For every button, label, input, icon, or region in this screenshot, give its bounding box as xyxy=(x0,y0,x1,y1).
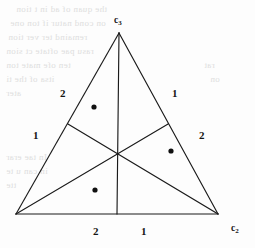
region-label-bottom-left: 2 xyxy=(93,226,99,237)
median-from-apex xyxy=(117,33,119,214)
region-label-left-upper: 2 xyxy=(60,88,66,99)
median-from-bottom-right xyxy=(68,124,218,214)
point-upper-left xyxy=(91,104,96,109)
median-from-bottom-left xyxy=(16,124,168,214)
point-mid-right xyxy=(168,148,173,153)
region-label-left-lower: 1 xyxy=(33,130,39,141)
region-label-right-upper: 1 xyxy=(172,88,178,99)
apex-vertex-label: c3 xyxy=(114,16,122,27)
bottom-right-vertex-label: c2 xyxy=(231,224,239,235)
region-label-right-lower: 2 xyxy=(199,130,205,141)
simplex-triangle-drawing xyxy=(0,0,255,248)
apex-vertex-label-subscript: 3 xyxy=(118,19,122,27)
region-label-bottom-right: 1 xyxy=(141,226,147,237)
bottom-right-vertex-label-subscript: 2 xyxy=(235,227,239,235)
median-lines-group xyxy=(16,33,218,214)
edge-left xyxy=(16,33,119,214)
point-lower-left xyxy=(92,187,97,192)
figure-container: the quan of ad in t tionon cond natur if… xyxy=(0,0,255,248)
edge-right xyxy=(119,33,218,214)
